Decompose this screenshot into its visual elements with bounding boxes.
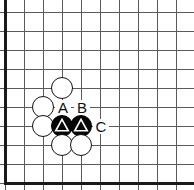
- board-label-b: B: [74, 100, 90, 115]
- board-label-a: A: [55, 100, 71, 115]
- board-labels: ABC: [0, 0, 194, 190]
- board-label-c: C: [93, 119, 109, 134]
- go-board-diagram: ABC: [0, 0, 194, 190]
